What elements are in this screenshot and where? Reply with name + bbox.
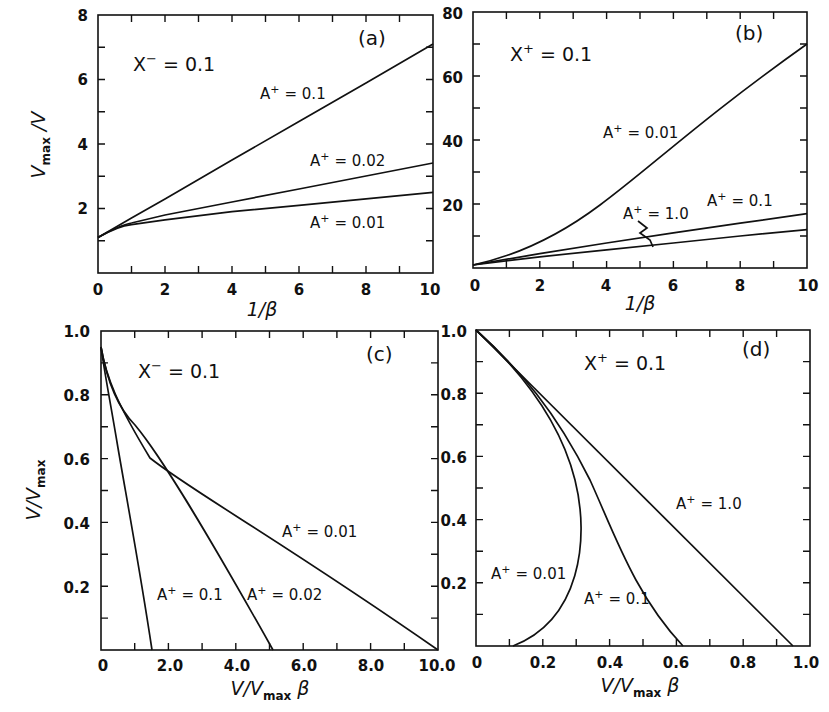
panel-d-ann-2: A+= 0.1: [584, 588, 650, 608]
svg-text:10: 10: [798, 277, 819, 295]
svg-text:2.0: 2.0: [157, 657, 184, 675]
panel-c-curve-a01: [101, 347, 152, 650]
svg-text:0.6: 0.6: [440, 449, 467, 467]
svg-text:0.2: 0.2: [530, 654, 557, 672]
panel-a-xlabel: 1/β: [247, 298, 278, 320]
panel-d-curve-a001: [476, 330, 581, 646]
svg-text:2: 2: [535, 277, 545, 295]
panel-c-curve-a001: [101, 347, 438, 650]
panel-c-ann-2: A+= 0.02: [247, 584, 322, 604]
panel-b-label: (b): [735, 21, 763, 45]
figure: 0 2 4 6 8 10 2 4 6 8 X−= 0.1 (a) A+= 0.1…: [0, 0, 829, 712]
panel-b-leader: [638, 221, 653, 247]
panel-c-ytick-labels: 0.2 0.4 0.6 0.8 1.0: [63, 323, 90, 597]
panel-b: 0 2 4 6 8 10 20 40 60 80 X+= 0.1 (b) A+=…: [442, 5, 818, 314]
panel-d-xtick-labels: 0 0.2 0.4 0.6 0.8 1.0: [472, 654, 820, 672]
panel-b-ann-2: A+= 0.1: [707, 190, 773, 210]
svg-text:1.0: 1.0: [63, 323, 90, 341]
panel-d: 0 0.2 0.4 0.6 0.8 1.0 0.2 0.4 0.6 0.8 1.…: [440, 323, 819, 700]
svg-text:6.0: 6.0: [291, 657, 318, 675]
panel-b-curve-a001: [473, 44, 807, 265]
panel-a-ann-2: A+= 0.01: [310, 212, 385, 232]
svg-text:4: 4: [601, 277, 611, 295]
panel-c-ylabel: V/Vmax: [22, 459, 48, 520]
panel-c: 0 2.0 4.0 6.0 8.0 10.0 0.2 0.4 0.6 0.8 1…: [22, 323, 456, 703]
panel-c-label: (c): [366, 342, 393, 366]
panel-b-condition: X+= 0.1: [510, 41, 592, 65]
svg-text:4: 4: [227, 281, 237, 299]
panel-b-ytick-labels: 20 40 60 80: [442, 5, 463, 215]
svg-text:0.8: 0.8: [63, 387, 90, 405]
panel-b-xlabel: 1/β: [625, 292, 656, 314]
svg-text:0: 0: [472, 654, 482, 672]
svg-text:60: 60: [442, 69, 463, 87]
svg-text:10.0: 10.0: [418, 657, 455, 675]
svg-text:1.0: 1.0: [793, 654, 820, 672]
panel-d-condition: X+= 0.1: [584, 350, 666, 374]
svg-text:0.8: 0.8: [440, 386, 467, 404]
panel-a-label: (a): [358, 26, 386, 50]
svg-text:0.2: 0.2: [63, 579, 90, 597]
panel-a-ylabel: Vmax /V: [27, 110, 53, 179]
svg-text:0.2: 0.2: [440, 575, 467, 593]
panel-c-xtick-labels: 0 2.0 4.0 6.0 8.0 10.0: [98, 657, 456, 675]
panel-c-xlabel: V/Vmax β: [231, 677, 310, 703]
panel-d-ann-0: A+= 1.0: [676, 493, 742, 513]
svg-text:8.0: 8.0: [358, 657, 385, 675]
panel-b-curve-a01: [473, 214, 807, 265]
panel-b-ann-1: A+= 1.0: [623, 203, 689, 223]
svg-text:8: 8: [361, 281, 371, 299]
panel-a-ann-0: A+= 0.1: [260, 83, 326, 103]
svg-text:80: 80: [442, 5, 463, 23]
panel-d-curve-a01: [476, 330, 683, 646]
svg-text:10: 10: [420, 281, 441, 299]
panel-c-ticks: [101, 331, 438, 650]
svg-text:20: 20: [442, 197, 463, 215]
panel-d-label: (d): [742, 337, 770, 361]
panel-c-ann-1: A+= 0.1: [157, 584, 223, 604]
panel-c-ann-0: A+= 0.01: [282, 521, 357, 541]
panel-d-xlabel: V/Vmax β: [601, 674, 680, 700]
panel-d-ann-1: A+= 0.01: [491, 563, 566, 583]
svg-text:6: 6: [78, 71, 88, 89]
svg-text:8: 8: [735, 277, 745, 295]
panel-a: 0 2 4 6 8 10 2 4 6 8 X−= 0.1 (a) A+= 0.1…: [27, 7, 440, 320]
panel-a-ann-1: A+= 0.02: [310, 150, 385, 170]
svg-text:0.6: 0.6: [63, 451, 90, 469]
svg-text:0.4: 0.4: [597, 654, 624, 672]
panel-a-xtick-labels: 0 2 4 6 8 10: [93, 281, 441, 299]
svg-text:0: 0: [98, 657, 108, 675]
svg-text:4.0: 4.0: [224, 657, 251, 675]
svg-text:2: 2: [160, 281, 170, 299]
svg-text:40: 40: [442, 133, 463, 151]
svg-text:6: 6: [668, 277, 678, 295]
svg-text:4: 4: [78, 136, 88, 154]
svg-text:0.4: 0.4: [63, 515, 90, 533]
panel-c-condition: X−= 0.1: [138, 358, 220, 382]
panel-b-ann-0: A+= 0.01: [603, 122, 678, 142]
svg-text:0: 0: [93, 281, 103, 299]
svg-text:8: 8: [78, 7, 88, 25]
svg-text:0.8: 0.8: [730, 654, 757, 672]
panel-a-ytick-labels: 2 4 6 8: [78, 7, 88, 218]
svg-text:0: 0: [470, 277, 480, 295]
panel-d-ytick-labels: 0.2 0.4 0.6 0.8 1.0: [440, 323, 467, 593]
panel-b-curve-a10: [473, 230, 807, 265]
panel-c-frame: [101, 331, 438, 650]
svg-text:0.6: 0.6: [663, 654, 690, 672]
svg-text:0.4: 0.4: [440, 512, 467, 530]
svg-text:1.0: 1.0: [440, 323, 467, 341]
panel-a-condition: X−= 0.1: [133, 51, 215, 75]
svg-text:2: 2: [78, 200, 88, 218]
svg-text:6: 6: [294, 281, 304, 299]
